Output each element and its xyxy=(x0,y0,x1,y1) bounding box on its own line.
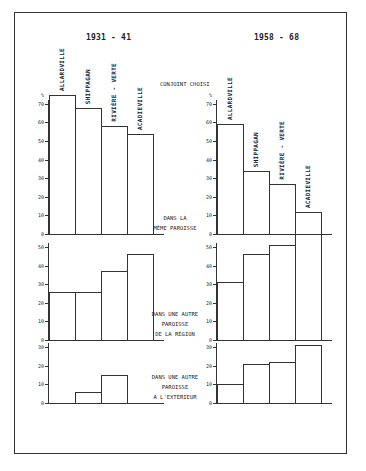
bar-shippagan xyxy=(243,254,270,341)
bar-shippagan xyxy=(75,392,102,404)
bar-acadieville xyxy=(295,234,322,341)
y-tick-mark xyxy=(213,122,216,123)
y-tick-mark xyxy=(213,215,216,216)
bar-acadieville xyxy=(295,212,322,235)
y-tick-label: 0 xyxy=(32,231,44,237)
y-tick-mark xyxy=(213,141,216,142)
y-tick-label: 20 xyxy=(200,300,212,306)
category-label: SHIPPAGAN xyxy=(252,132,259,167)
y-tick-mark xyxy=(213,321,216,322)
category-label: ALLARDVILLE xyxy=(58,48,65,91)
y-tick-mark xyxy=(45,247,48,248)
y-tick-mark xyxy=(213,403,216,404)
y-tick-mark xyxy=(45,340,48,341)
unit-label: % xyxy=(32,92,44,98)
y-tick-mark xyxy=(45,403,48,404)
y-tick-mark xyxy=(45,384,48,385)
y-tick-mark xyxy=(213,160,216,161)
bar-acadieville xyxy=(295,345,322,404)
category-label: RIVIÈRE - VERTE xyxy=(110,63,117,122)
bar-allardville xyxy=(49,95,76,236)
y-tick-label: 30 xyxy=(200,281,212,287)
period-title-left: 1931 - 41 xyxy=(86,33,131,42)
y-tick-label: 0 xyxy=(32,400,44,406)
bar-allardville xyxy=(217,124,244,235)
y-tick-label: 50 xyxy=(32,244,44,250)
y-tick-mark xyxy=(45,284,48,285)
y-tick-mark xyxy=(213,366,216,367)
y-tick-mark xyxy=(45,366,48,367)
y-tick-label: 50 xyxy=(200,138,212,144)
y-tick-mark xyxy=(45,141,48,142)
category-label: ALLARDVILLE xyxy=(226,77,233,120)
unit-label: % xyxy=(200,92,212,98)
y-tick-label: 50 xyxy=(32,138,44,144)
category-label: ACADIEVILLE xyxy=(304,165,311,208)
section-label-line: DANS UNE AUTRE xyxy=(140,309,210,319)
period-title-right: 1958 - 68 xyxy=(254,33,299,42)
y-tick-mark xyxy=(213,340,216,341)
y-tick-label: 30 xyxy=(32,175,44,181)
y-tick-label: 70 xyxy=(200,101,212,107)
y-tick-mark xyxy=(213,347,216,348)
y-tick-mark xyxy=(45,266,48,267)
y-tick-mark xyxy=(213,266,216,267)
y-tick-mark xyxy=(213,178,216,179)
y-tick-mark xyxy=(45,215,48,216)
y-tick-label: 20 xyxy=(32,194,44,200)
y-tick-label: 40 xyxy=(32,157,44,163)
section-label-line: DANS LA xyxy=(140,213,210,223)
bar-shippagan xyxy=(243,364,270,404)
y-tick-label: 20 xyxy=(32,300,44,306)
bar-shippagan xyxy=(75,292,102,341)
y-tick-label: 40 xyxy=(32,263,44,269)
y-tick-label: 10 xyxy=(32,381,44,387)
category-label: RIVIÈRE - VERTE xyxy=(278,121,285,180)
y-tick-label: 30 xyxy=(200,344,212,350)
y-tick-label: 30 xyxy=(200,175,212,181)
y-tick-mark xyxy=(45,104,48,105)
bar-allardville xyxy=(217,282,244,341)
y-tick-mark xyxy=(45,122,48,123)
y-axis xyxy=(48,343,49,403)
y-tick-mark xyxy=(213,303,216,304)
y-tick-mark xyxy=(213,234,216,235)
bar-shippagan xyxy=(75,108,102,235)
y-tick-mark xyxy=(45,347,48,348)
y-tick-label: 20 xyxy=(200,194,212,200)
bar-rivi-re-verte xyxy=(101,375,128,404)
bar-allardville xyxy=(49,292,76,341)
y-tick-mark xyxy=(45,178,48,179)
section-label-line: À L'EXTÉRIEUR xyxy=(140,392,210,402)
section-label-line: PAROISSE xyxy=(140,319,210,329)
section-label-line: DE LA RÉGION xyxy=(140,329,210,339)
y-tick-label: 40 xyxy=(200,263,212,269)
y-tick-label: 70 xyxy=(32,101,44,107)
y-tick-label: 60 xyxy=(200,119,212,125)
y-tick-mark xyxy=(213,284,216,285)
y-tick-label: 30 xyxy=(32,344,44,350)
bar-rivi-re-verte xyxy=(101,126,128,235)
bar-rivi-re-verte xyxy=(101,271,128,341)
y-tick-mark xyxy=(213,247,216,248)
y-tick-mark xyxy=(45,321,48,322)
y-tick-label: 10 xyxy=(32,318,44,324)
y-tick-label: 10 xyxy=(32,212,44,218)
y-tick-mark xyxy=(45,234,48,235)
y-tick-mark xyxy=(213,384,216,385)
y-tick-label: 40 xyxy=(200,157,212,163)
y-tick-label: 50 xyxy=(200,244,212,250)
category-label: SHIPPAGAN xyxy=(84,69,91,104)
y-tick-mark xyxy=(213,197,216,198)
section-label-line: PAROISSE xyxy=(140,382,210,392)
bar-rivi-re-verte xyxy=(269,362,296,404)
y-tick-mark xyxy=(45,160,48,161)
section-label-line: MÊME PAROISSE xyxy=(140,223,210,233)
bar-allardville xyxy=(217,384,244,404)
y-tick-label: 0 xyxy=(32,337,44,343)
y-tick-label: 20 xyxy=(32,363,44,369)
bar-rivi-re-verte xyxy=(269,184,296,235)
y-tick-mark xyxy=(213,104,216,105)
y-tick-mark xyxy=(45,303,48,304)
bar-rivi-re-verte xyxy=(269,245,296,341)
